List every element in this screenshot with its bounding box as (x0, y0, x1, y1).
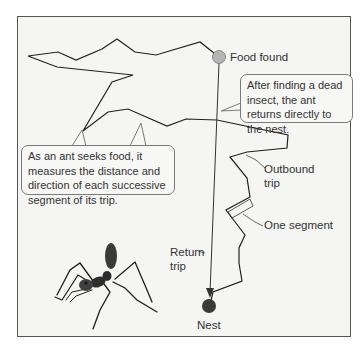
food-marker (213, 51, 226, 64)
segment-leader-line (243, 214, 263, 226)
nest-marker (202, 299, 216, 313)
seek-callout: As an ant seeks food, it measures the di… (21, 145, 175, 195)
seek-callout-tail-right (130, 123, 146, 146)
outbound-trip-label-line2: trip (264, 176, 315, 190)
seek-callout-tail-left (72, 130, 86, 146)
return-trip-line (210, 63, 219, 293)
return-callout: After finding a dead insect, the ant ret… (240, 74, 353, 123)
outbound-trip-label: Outbound trip (264, 162, 315, 190)
food-found-label: Food found (230, 50, 288, 64)
outbound-leader-line (246, 155, 265, 168)
return-callout-tail (221, 103, 241, 111)
outbound-trip-label-line1: Outbound (264, 162, 315, 176)
return-trip-label: Return trip (170, 245, 205, 273)
ant-body (79, 243, 117, 291)
one-segment-label: One segment (264, 218, 333, 232)
nest-label: Nest (197, 318, 221, 332)
return-trip-label-line1: Return (170, 245, 205, 259)
return-trip-label-line2: trip (170, 259, 205, 273)
